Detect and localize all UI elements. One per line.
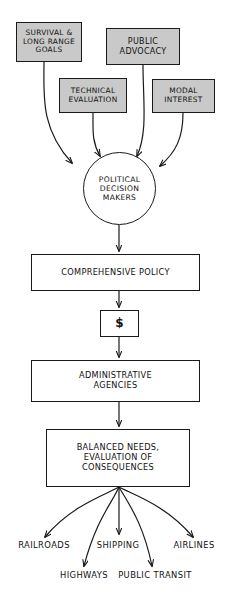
node-survival-goals-label: SURVIVAL & LONG RANGE GOALS	[23, 29, 75, 55]
dollar-icon: $	[115, 316, 124, 330]
node-political-decision-makers-label: POLITICAL DECISION MAKERS	[99, 175, 140, 202]
connector-modal-to-decision	[160, 113, 183, 166]
flowchart-diagram: SURVIVAL & LONG RANGE GOALS PUBLIC ADVOC…	[0, 0, 234, 610]
node-technical-evaluation-label: TECHNICAL EVALUATION	[69, 87, 118, 104]
connector-balanced-to-airlines	[119, 487, 193, 537]
outcome-airlines[interactable]: AIRLINES	[173, 540, 214, 550]
outcome-railroads[interactable]: RAILROADS	[18, 540, 70, 550]
node-survival-goals[interactable]: SURVIVAL & LONG RANGE GOALS	[16, 22, 82, 62]
node-political-decision-makers[interactable]: POLITICAL DECISION MAKERS	[83, 152, 156, 225]
connector-technical-to-decision	[93, 113, 100, 156]
outcome-shipping[interactable]: SHIPPING	[97, 540, 140, 550]
node-administrative-agencies[interactable]: ADMINISTRATIVE AGENCIES	[31, 360, 200, 402]
node-modal-interest[interactable]: MODAL INTEREST	[152, 79, 215, 113]
connector-balanced-to-railroads	[45, 487, 119, 537]
outcome-highways[interactable]: HIGHWAYS	[60, 570, 108, 580]
outcome-public-transit[interactable]: PUBLIC TRANSIT	[118, 570, 192, 580]
node-balanced-needs[interactable]: BALANCED NEEDS, EVALUATION OF CONSEQUENC…	[46, 429, 190, 487]
outcome-shipping-label: SHIPPING	[97, 540, 140, 550]
node-comprehensive-policy-label: COMPREHENSIVE POLICY	[61, 268, 169, 278]
node-funding[interactable]: $	[100, 310, 139, 337]
node-balanced-needs-label: BALANCED NEEDS, EVALUATION OF CONSEQUENC…	[77, 443, 160, 472]
node-comprehensive-policy[interactable]: COMPREHENSIVE POLICY	[31, 254, 200, 291]
outcome-highways-label: HIGHWAYS	[60, 570, 108, 580]
node-public-advocacy[interactable]: PUBLIC ADVOCACY	[106, 28, 180, 65]
outcome-public-transit-label: PUBLIC TRANSIT	[118, 570, 192, 580]
node-administrative-agencies-label: ADMINISTRATIVE AGENCIES	[79, 371, 152, 390]
node-technical-evaluation[interactable]: TECHNICAL EVALUATION	[59, 78, 127, 113]
node-public-advocacy-label: PUBLIC ADVOCACY	[120, 37, 167, 56]
connector-balanced-to-highways	[84, 487, 119, 566]
outcome-railroads-label: RAILROADS	[18, 540, 70, 550]
connector-balanced-to-public-transit	[119, 487, 152, 566]
outcome-airlines-label: AIRLINES	[173, 540, 214, 550]
node-modal-interest-label: MODAL INTEREST	[164, 87, 202, 104]
connector-advocacy-to-decision	[137, 65, 144, 156]
